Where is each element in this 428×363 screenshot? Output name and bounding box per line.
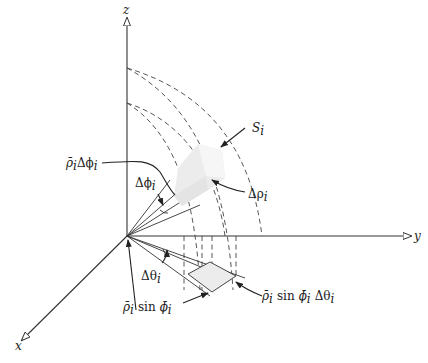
spherical-volume-diagram: z y x (0, 0, 428, 363)
rho-sin-phi-dtheta-leader (236, 282, 262, 296)
base-patch (188, 262, 236, 292)
theta-wedge-lines (127, 236, 245, 296)
volume-element-solid (174, 144, 225, 206)
z-axis-label: z (122, 3, 130, 17)
delta-rho-label: Δρi (248, 187, 268, 204)
rho-sin-phi-label: ρ̄isinϕ̄i (122, 300, 172, 317)
delta-theta-label: Δθi (141, 269, 161, 286)
y-axis-label: y (413, 229, 421, 243)
delta-phi-leader (158, 194, 163, 205)
rho-sin-phi-leader-2 (183, 293, 208, 303)
delta-phi-label: Δϕi (135, 176, 156, 193)
rho-delta-phi-label: ρ̄iΔϕi (65, 156, 98, 173)
rho-sin-phi-dtheta-label: ρ̄isinϕ̄iΔθi (261, 289, 335, 306)
surface-leader (221, 128, 245, 147)
x-axis (22, 236, 127, 340)
x-axis-label: x (15, 339, 22, 353)
delta-theta-arc (163, 249, 165, 257)
surface-label: Si (252, 121, 264, 138)
